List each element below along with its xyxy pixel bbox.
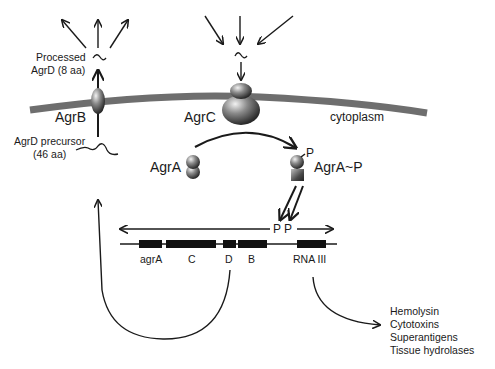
- promoter-activation-arrows: [280, 186, 303, 220]
- output-superantigens: Superantigens: [390, 331, 458, 343]
- processed-agrd-label: Processed: [36, 51, 86, 63]
- gene-d-label: D: [225, 253, 233, 265]
- phosphate-label: P: [306, 146, 314, 160]
- agra-p-label: AgrA~P: [314, 159, 363, 175]
- operon-genes: [139, 240, 326, 248]
- agra-p-protein-icon: [290, 154, 305, 181]
- secreted-aip-arrows: [62, 20, 128, 48]
- gene-b-label: B: [248, 253, 255, 265]
- agra-protein-icon: [186, 155, 200, 179]
- output-tissue-hydrolases: Tissue hydrolases: [390, 344, 474, 356]
- gene-b-block: [238, 240, 267, 248]
- agrd-precursor-size: (46 aa): [33, 148, 66, 160]
- cytoplasm-label: cytoplasm: [330, 110, 384, 124]
- agrd-feedback-loop: [98, 200, 230, 339]
- agrd-precursor-label: AgrD precursor: [14, 135, 86, 147]
- aip-peptide-icon: [235, 53, 247, 58]
- output-cytotoxins: Cytotoxins: [390, 318, 439, 330]
- incoming-aip-arrows: [205, 16, 293, 44]
- promoter-p3-label: P: [284, 222, 292, 236]
- agrc-protein-icon: [222, 83, 260, 125]
- promoter-p2-label: P: [273, 222, 281, 236]
- gene-c-block: [166, 240, 216, 248]
- gene-agra-label: agrA: [140, 253, 162, 265]
- gene-c-label: C: [188, 253, 196, 265]
- agr-quorum-sensing-diagram: Processed AgrD (8 aa) AgrB AgrC cytoplas…: [0, 0, 495, 369]
- output-hemolysin: Hemolysin: [390, 305, 439, 317]
- agrb-protein-icon: [91, 88, 105, 114]
- agrc-label: AgrC: [184, 109, 216, 125]
- phosphorylation-arrow: [195, 133, 296, 148]
- processed-agrd-peptide-icon: [93, 55, 106, 60]
- gene-agra-block: [139, 240, 162, 248]
- rnaiii-output-arrow: [313, 277, 380, 325]
- gene-rnaiii-block: [297, 240, 326, 248]
- agra-label: AgrA: [150, 159, 182, 175]
- gene-d-block: [223, 240, 236, 248]
- processed-agrd-label-size: AgrD (8 aa): [31, 64, 85, 76]
- agrb-label: AgrB: [55, 109, 86, 125]
- gene-rnaiii-label: RNA III: [293, 253, 326, 265]
